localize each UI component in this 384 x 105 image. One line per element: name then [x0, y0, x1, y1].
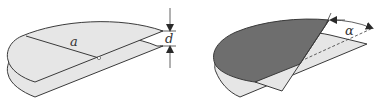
center-point: [97, 56, 100, 59]
angle-label: α: [345, 23, 354, 38]
angle-tick: [326, 13, 331, 24]
right-panel-rotated-plates: α: [214, 13, 373, 97]
left-panel-parallel-plates: a d: [7, 8, 176, 97]
separation-label: d: [165, 31, 173, 46]
radius-label: a: [70, 34, 78, 49]
half-disc-plates-diagram: a d α: [0, 0, 384, 105]
